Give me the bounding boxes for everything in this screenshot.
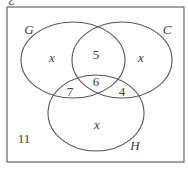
region-h-only: x xyxy=(94,118,100,131)
set-h-label: H xyxy=(130,139,139,152)
set-c-label: C xyxy=(163,23,172,36)
region-c-only: x xyxy=(138,51,144,64)
region-g-c: 5 xyxy=(93,48,100,61)
region-outside: 11 xyxy=(18,132,31,145)
region-g-h: 7 xyxy=(67,85,74,98)
set-g-label: G xyxy=(24,23,33,36)
universal-set-symbol: ℰ xyxy=(8,0,15,8)
region-g-only: x xyxy=(49,51,55,64)
region-g-c-h: 6 xyxy=(93,75,100,88)
region-c-h: 4 xyxy=(119,85,126,98)
